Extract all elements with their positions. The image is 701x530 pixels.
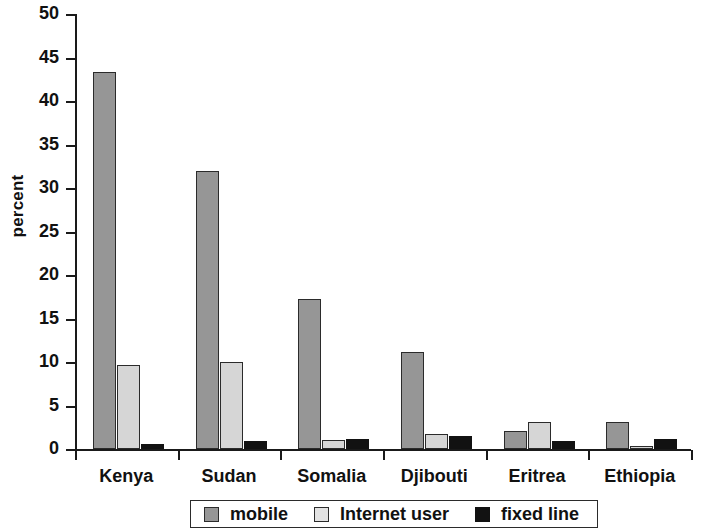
bar-internet-user — [220, 362, 243, 449]
y-axis-tick: 30 — [66, 188, 75, 190]
legend-item: fixed line — [475, 504, 579, 525]
y-axis-tick: 20 — [66, 275, 75, 277]
x-axis-tick — [280, 450, 282, 460]
y-axis-tick-label: 25 — [39, 221, 59, 242]
legend-swatch-icon — [475, 507, 490, 522]
bar-internet-user — [528, 422, 551, 449]
y-axis-tick-label: 35 — [39, 134, 59, 155]
y-axis-tick-label: 30 — [39, 177, 59, 198]
y-axis-tick-label: 20 — [39, 264, 59, 285]
legend-item: mobile — [204, 504, 288, 525]
bar-chart: percent 05101520253035404550 KenyaSudanS… — [0, 0, 701, 530]
bar-fixed-line — [654, 439, 677, 449]
y-axis-tick-label: 40 — [39, 90, 59, 111]
bar-fixed-line — [449, 436, 472, 449]
bar-mobile — [401, 352, 424, 449]
bar-mobile — [196, 171, 219, 449]
chart-legend: mobileInternet userfixed line — [190, 500, 598, 528]
legend-label: fixed line — [501, 504, 579, 525]
legend-items: mobileInternet userfixed line — [204, 504, 605, 525]
x-axis-category-label: Kenya — [75, 466, 178, 487]
bar-internet-user — [630, 446, 653, 449]
bar-group — [486, 13, 589, 449]
y-axis-tick: 10 — [66, 362, 75, 364]
bar-group — [178, 13, 281, 449]
x-axis-tick — [75, 450, 77, 460]
y-axis-tick: 5 — [66, 406, 75, 408]
bar-mobile — [504, 431, 527, 449]
bar-mobile — [93, 72, 116, 449]
y-axis-title: percent — [8, 146, 28, 266]
bar-fixed-line — [244, 441, 267, 449]
bar-group — [383, 13, 486, 449]
bar-fixed-line — [141, 444, 164, 449]
bar-fixed-line — [552, 441, 575, 449]
legend-swatch-icon — [204, 507, 219, 522]
x-axis-category-label: Sudan — [178, 466, 281, 487]
y-axis-tick-label: 0 — [49, 438, 59, 459]
x-axis-tick — [691, 450, 693, 460]
y-axis-tick: 15 — [66, 319, 75, 321]
x-axis-category-label: Djibouti — [383, 466, 486, 487]
legend-item: Internet user — [314, 504, 449, 525]
x-axis-tick — [588, 450, 590, 460]
bar-internet-user — [117, 365, 140, 449]
y-axis-tick: 50 — [66, 14, 75, 16]
bar-group — [280, 13, 383, 449]
bar-mobile — [298, 299, 321, 449]
y-axis-tick-label: 5 — [49, 395, 59, 416]
y-axis-tick: 25 — [66, 232, 75, 234]
legend-label: Internet user — [340, 504, 449, 525]
y-axis-tick: 45 — [66, 58, 75, 60]
y-axis-tick-label: 10 — [39, 351, 59, 372]
y-axis-tick: 40 — [66, 101, 75, 103]
bar-internet-user — [322, 440, 345, 449]
y-axis-tick-label: 15 — [39, 308, 59, 329]
x-axis-category-label: Ethiopia — [588, 466, 691, 487]
legend-swatch-icon — [314, 507, 329, 522]
bar-mobile — [606, 422, 629, 449]
y-axis-tick: 35 — [66, 145, 75, 147]
x-axis-tick — [383, 450, 385, 460]
y-axis-tick: 0 — [66, 449, 75, 451]
bar-fixed-line — [346, 439, 369, 449]
x-axis-category-label: Eritrea — [486, 466, 589, 487]
x-axis-tick — [486, 450, 488, 460]
x-axis-category-label: Somalia — [280, 466, 383, 487]
bar-group — [75, 13, 178, 449]
bar-group — [588, 13, 691, 449]
plot-area: 05101520253035404550 KenyaSudanSomaliaDj… — [75, 14, 691, 450]
y-axis-tick-label: 45 — [39, 47, 59, 68]
legend-label: mobile — [230, 504, 288, 525]
x-axis-tick — [178, 450, 180, 460]
y-axis-tick-label: 50 — [39, 3, 59, 24]
bar-internet-user — [425, 434, 448, 449]
